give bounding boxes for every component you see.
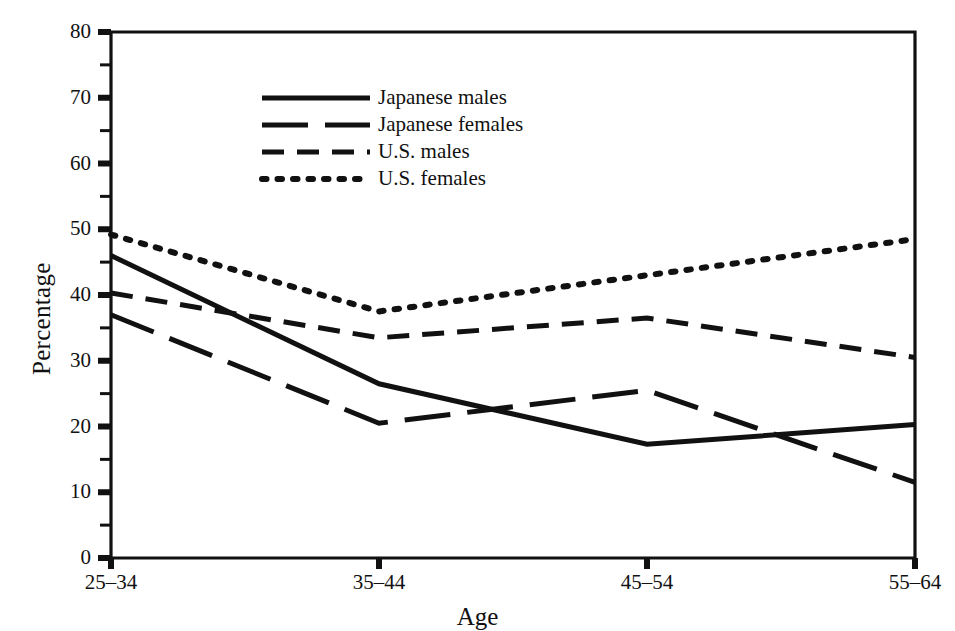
legend-entry-label: Japanese females	[378, 114, 523, 135]
y-tick-label: 70	[0, 87, 91, 108]
y-tick-label: 10	[0, 481, 91, 502]
legend-line-samples	[262, 98, 370, 179]
x-tick-label: 55–64	[855, 572, 955, 593]
x-tick-label: 45–54	[587, 572, 707, 593]
plot-border	[111, 32, 915, 558]
y-tick-label: 0	[0, 547, 91, 568]
series-line-0	[111, 256, 915, 445]
plot-frame	[111, 32, 915, 558]
figure-container: 01020304050607080 25–3435–4445–5455–64 P…	[0, 0, 955, 631]
series-line-2	[111, 293, 915, 357]
clipped-caption	[0, 614, 955, 631]
y-tick-label: 60	[0, 153, 91, 174]
series-line-3	[111, 235, 915, 312]
series-lines	[111, 235, 915, 483]
x-tick-label: 35–44	[319, 572, 439, 593]
y-tick-label: 50	[0, 218, 91, 239]
series-line-1	[111, 315, 915, 483]
y-axis-title: Percentage	[28, 262, 56, 375]
y-tick-label: 20	[0, 416, 91, 437]
legend-entry-label: Japanese males	[378, 87, 507, 108]
y-tick-label: 80	[0, 21, 91, 42]
x-tick-label: 25–34	[51, 572, 171, 593]
legend-entry-label: U.S. females	[378, 168, 486, 189]
legend-entry-label: U.S. males	[378, 141, 470, 162]
